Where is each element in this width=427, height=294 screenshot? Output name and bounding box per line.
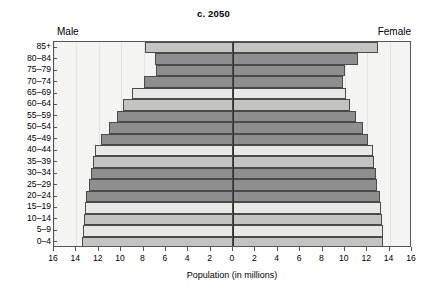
bar-female xyxy=(233,156,374,167)
x-axis-tick xyxy=(210,247,211,251)
bar-male xyxy=(83,225,233,236)
bar-male xyxy=(132,88,233,99)
x-axis-tick-label: 8 xyxy=(310,253,334,263)
bar-male xyxy=(144,76,234,87)
bar-female xyxy=(233,42,378,53)
bar-male xyxy=(145,42,233,53)
bar-male xyxy=(85,202,233,213)
y-axis-tick-label: 5–9 xyxy=(7,225,51,234)
y-axis-tick-label: 80–84 xyxy=(7,54,51,63)
y-axis-tick xyxy=(53,81,57,82)
y-axis-tick xyxy=(53,47,57,48)
bar-male xyxy=(93,156,233,167)
y-axis-tick xyxy=(53,196,57,197)
x-axis-tick xyxy=(120,247,121,251)
x-axis-tick-label: 12 xyxy=(86,253,110,263)
bar-female xyxy=(233,237,383,247)
bar-female xyxy=(233,122,363,133)
x-axis-tick xyxy=(232,247,233,251)
bar-female xyxy=(233,76,343,87)
x-axis-tick xyxy=(187,247,188,251)
bar-female xyxy=(233,225,383,236)
y-axis-tick xyxy=(53,161,57,162)
x-axis-tick-label: 12 xyxy=(354,253,378,263)
x-axis-tick-label: 4 xyxy=(175,253,199,263)
x-axis-tick xyxy=(389,247,390,251)
x-axis-tick-label: 16 xyxy=(41,253,65,263)
y-axis-tick xyxy=(53,138,57,139)
x-axis-tick-label: 10 xyxy=(332,253,356,263)
x-axis-tick xyxy=(53,247,54,251)
x-axis-tick xyxy=(98,247,99,251)
x-axis-tick xyxy=(411,247,412,251)
y-axis-tick xyxy=(53,173,57,174)
bar-male xyxy=(155,53,233,64)
bar-female xyxy=(233,99,350,110)
y-axis-tick xyxy=(53,230,57,231)
y-axis-tick-label: 40–44 xyxy=(7,145,51,154)
y-axis-tick-label: 70–74 xyxy=(7,77,51,86)
y-axis-tick-label: 20–24 xyxy=(7,191,51,200)
y-axis-tick-label: 35–39 xyxy=(7,157,51,166)
y-axis-tick-label: 65–69 xyxy=(7,88,51,97)
bar-female xyxy=(233,214,382,225)
bar-male xyxy=(101,134,233,145)
bar-female xyxy=(233,111,356,122)
x-axis-tick-label: 10 xyxy=(108,253,132,263)
bar-male xyxy=(95,145,233,156)
bar-male xyxy=(86,191,233,202)
x-axis-title: Population (in millions) xyxy=(53,270,411,280)
x-axis-tick xyxy=(277,247,278,251)
bar-female xyxy=(233,145,373,156)
x-axis-tick xyxy=(254,247,255,251)
bar-male xyxy=(84,214,233,225)
x-axis-tick-label: 0 xyxy=(220,253,244,263)
y-axis-tick-label: 25–29 xyxy=(7,180,51,189)
x-axis-tick xyxy=(322,247,323,251)
bar-female xyxy=(233,53,358,64)
y-axis-tick xyxy=(53,58,57,59)
y-axis-tick xyxy=(53,207,57,208)
y-axis-tick xyxy=(53,93,57,94)
y-axis-tick xyxy=(53,241,57,242)
y-axis-labels: 85+80–8475–7970–7465–6960–6455–5950–5445… xyxy=(5,41,51,247)
y-axis-tick-label: 55–59 xyxy=(7,111,51,120)
male-series-label: Male xyxy=(57,26,79,37)
y-axis-tick-label: 10–14 xyxy=(7,214,51,223)
bar-male xyxy=(82,237,233,247)
bar-female xyxy=(233,191,380,202)
bar-male xyxy=(123,99,233,110)
x-axis-tick xyxy=(75,247,76,251)
y-axis-tick-label: 50–54 xyxy=(7,122,51,131)
bar-female xyxy=(233,168,376,179)
bar-female xyxy=(233,179,377,190)
y-axis-tick xyxy=(53,104,57,105)
x-axis-tick-label: 16 xyxy=(399,253,423,263)
bar-male xyxy=(156,65,233,76)
x-axis-tick-label: 14 xyxy=(63,253,87,263)
y-axis-tick-label: 85+ xyxy=(7,42,51,51)
bar-male xyxy=(89,179,233,190)
y-axis-tick xyxy=(53,184,57,185)
female-series-label: Female xyxy=(347,26,411,37)
x-axis-tick xyxy=(143,247,144,251)
x-axis-tick-label: 6 xyxy=(287,253,311,263)
y-axis-tick-label: 60–64 xyxy=(7,99,51,108)
y-axis-tick-label: 15–19 xyxy=(7,202,51,211)
x-axis-tick xyxy=(299,247,300,251)
plot-area xyxy=(53,41,411,247)
center-axis-line xyxy=(233,42,234,246)
x-axis-tick-label: 4 xyxy=(265,253,289,263)
y-axis-tick-label: 0–4 xyxy=(7,237,51,246)
population-pyramid-figure: c. 2050 Male Female 85+80–8475–7970–7465… xyxy=(0,0,427,294)
chart-title: c. 2050 xyxy=(0,8,427,19)
x-axis-tick-label: 2 xyxy=(198,253,222,263)
bar-female xyxy=(233,202,381,213)
x-axis-tick-label: 14 xyxy=(377,253,401,263)
bar-male xyxy=(91,168,233,179)
bar-female xyxy=(233,88,346,99)
y-axis-tick-label: 45–49 xyxy=(7,134,51,143)
x-axis-tick-label: 2 xyxy=(242,253,266,263)
y-axis-tick xyxy=(53,70,57,71)
x-axis-tick xyxy=(165,247,166,251)
